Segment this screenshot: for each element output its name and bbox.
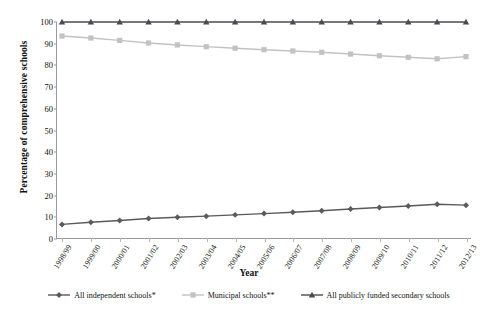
chart-legend: All independent schools*Municipal school… [0,290,498,300]
data-point-marker [175,42,180,47]
data-point-marker [117,218,123,224]
x-axis-title: Year [0,268,498,278]
data-point-marker [319,50,324,55]
y-tick-label: 80 [45,60,54,70]
data-point-marker [203,213,209,219]
data-point-marker [190,292,195,297]
x-tick-label: 1999/00 [81,243,103,271]
x-tick-label: 2003/04 [196,243,218,271]
data-point-marker [290,209,296,215]
legend-item[interactable]: Municipal schools** [182,290,275,300]
data-point-marker [261,211,267,217]
x-tick-label: 2010/11 [399,243,421,270]
data-point-marker [232,212,238,218]
y-tick-label: 90 [45,39,54,49]
y-tick-label: 70 [45,82,54,92]
y-axis-title: Percentage of comprehensive schools [19,7,29,227]
chart-figure: Percentage of comprehensive schools 0102… [0,0,498,312]
x-tick-label: 2006/07 [283,243,305,271]
x-tick-mark [91,238,92,242]
x-tick-mark [149,238,150,242]
x-tick-mark [380,238,381,242]
legend-label: Municipal schools** [208,291,275,300]
x-axis-tick-labels: 1998/991999/002000/012001/022002/032003/… [56,243,471,288]
data-point-marker [233,46,238,51]
data-point-marker [59,221,65,227]
plot-area: 0102030405060708090100 [56,22,471,239]
x-tick-mark [265,238,266,242]
x-tick-mark [293,238,294,242]
data-point-marker [463,54,468,59]
x-tick-mark [351,238,352,242]
data-point-marker [56,292,62,298]
y-tick-label: 60 [45,104,54,114]
x-tick-mark [438,238,439,242]
x-tick-label: 2004/05 [225,243,247,271]
x-tick-label: 2007/08 [312,243,334,271]
y-tick-label: 20 [45,191,54,201]
series-2 [59,33,468,61]
x-tick-mark [62,238,63,242]
data-point-marker [59,33,64,38]
data-point-marker [319,208,325,214]
y-tick-label: 100 [40,17,53,27]
x-tick-mark [207,238,208,242]
data-point-marker [146,40,151,45]
y-tick-label: 10 [45,212,54,222]
data-point-marker [88,219,94,225]
data-point-marker [406,55,411,60]
x-tick-mark [322,238,323,242]
data-point-marker [405,203,411,209]
x-tick-mark [409,238,410,242]
data-series-layer [57,22,471,238]
legend-marker-square-icon [182,290,204,300]
x-tick-mark [236,238,237,242]
data-point-marker [146,216,152,222]
x-tick-mark [178,238,179,242]
y-tick-label: 40 [45,147,54,157]
data-point-marker [435,56,440,61]
x-tick-label: 2011/12 [428,243,450,270]
cut-off-title [0,0,498,9]
data-point-marker [463,202,469,208]
data-point-marker [174,214,180,220]
x-tick-mark [120,238,121,242]
x-tick-label: 1998/99 [52,243,74,271]
data-point-marker [117,38,122,43]
y-tick-mark [54,239,57,240]
legend-marker-triangle-icon [301,290,323,300]
data-point-marker [204,44,209,49]
y-tick-label: 0 [49,234,53,244]
legend-marker-diamond-icon [48,290,70,300]
data-point-marker [261,47,266,52]
x-tick-label: 2000/01 [110,243,132,271]
x-tick-label: 2012/13 [457,243,479,271]
x-tick-label: 2005/06 [254,243,276,271]
x-tick-label: 2002/03 [167,243,189,271]
data-point-marker [348,51,353,56]
data-point-marker [377,53,382,58]
data-point-marker [290,48,295,53]
legend-item[interactable]: All publicly funded secondary schools [301,290,450,300]
series-1 [59,201,469,227]
data-point-marker [348,206,354,212]
data-point-marker [376,205,382,211]
data-point-marker [88,35,93,40]
x-tick-mark [467,238,468,242]
y-tick-label: 50 [45,126,54,136]
legend-item[interactable]: All independent schools* [48,290,155,300]
x-tick-label: 2008/09 [341,243,363,271]
data-point-marker [434,201,440,207]
y-tick-label: 30 [45,169,54,179]
x-tick-label: 2009/10 [370,243,392,271]
legend-label: All publicly funded secondary schools [327,291,450,300]
legend-label: All independent schools* [74,291,155,300]
x-tick-label: 2001/02 [139,243,161,271]
series-3 [59,19,469,25]
